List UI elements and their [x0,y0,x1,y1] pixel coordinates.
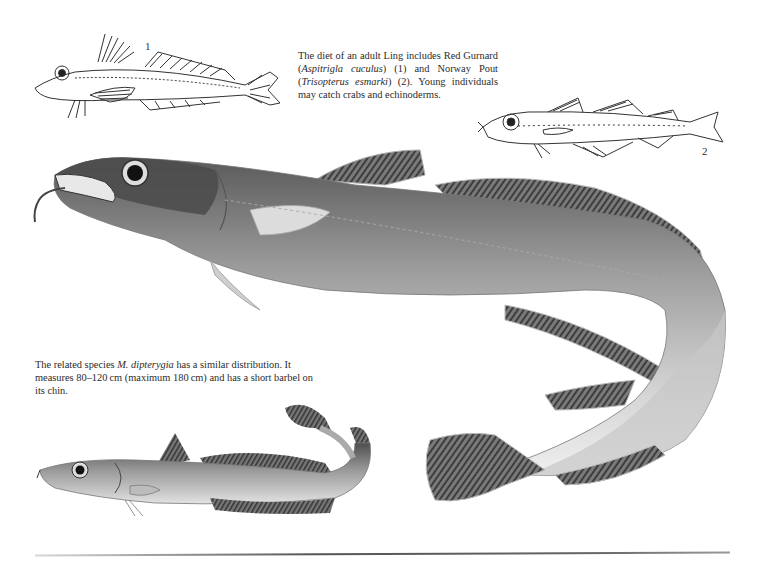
red-gurnard-illustration [30,30,285,120]
species-name-norway-pout: Trisopterus esmarki [301,76,388,87]
related-species-caption: The related species M. dipterygia has a … [35,358,325,397]
diet-caption: The diet of an adult Ling includes Red G… [298,49,498,101]
species-name-red-gurnard: Aspitrigla cuculus [301,63,382,74]
related-caption-text-1: The related species [35,359,117,370]
blue-ling-illustration [35,398,380,523]
page-bottom-rule [35,551,730,556]
species-name-m-dipterygia: M. dipterygia [117,359,174,370]
figure-label-1: 1 [145,40,151,52]
